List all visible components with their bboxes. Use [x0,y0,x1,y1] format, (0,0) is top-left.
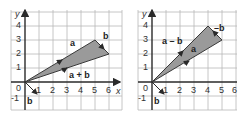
x-tick-5-right: 5 [219,85,224,95]
y-tick-2-right: 2 [143,48,148,58]
y-tick-0: 0 [16,83,21,93]
x-tick-1: 1 [36,85,41,95]
x-tick-5: 5 [92,85,97,95]
y-tick-3-right: 3 [143,34,148,44]
y-tick-neg1-right: -1 [138,93,146,103]
y-tick-4: 4 [16,20,21,30]
label-a-minus-b: a – b [162,36,183,46]
x-tick-2: 2 [50,85,55,95]
label-a-plus-b: a + b [69,70,90,80]
y-tick-2: 2 [16,48,21,58]
label-b-origin: b [27,96,33,106]
y-axis-label-right: y [141,9,147,19]
x-axis-label: x [115,86,121,96]
x-tick-3: 3 [64,85,69,95]
x-tick-4: 4 [78,85,83,95]
y-tick-4-right: 4 [143,20,148,30]
x-tick-6-right: 6 [232,85,237,95]
y-tick-0-right: 0 [143,83,148,93]
label-b-origin-right: b [154,96,160,106]
y-tick-1: 1 [16,62,21,72]
label-a: a [70,38,76,48]
y-axis-label: y [14,9,20,19]
y-tick-3: 3 [16,34,21,44]
x-tick-4-right: 4 [205,85,210,95]
x-tick-1-right: 1 [163,85,168,95]
label-neg-b: –b [214,23,225,33]
panel-sum: a b a + b b y x 1 2 3 4 5 6 4 3 2 1 0 -1 [11,9,122,110]
x-tick-6: 6 [106,85,111,95]
x-tick-3-right: 3 [191,85,196,95]
panel-difference: a – b a –b b y 1 2 3 4 5 6 4 3 2 1 0 -1 [138,9,237,110]
vector-diagram: a b a + b b y x 1 2 3 4 5 6 4 3 2 1 0 -1 [0,0,238,118]
y-tick-neg1: -1 [11,93,19,103]
x-tick-2-right: 2 [177,85,182,95]
y-tick-1-right: 1 [143,62,148,72]
label-b-tip: b [103,31,109,41]
